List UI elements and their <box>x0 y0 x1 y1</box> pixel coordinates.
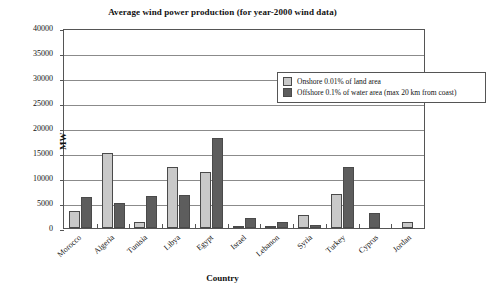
x-tick-label-text: Morocco <box>56 233 83 259</box>
bar-group <box>195 30 228 228</box>
x-tick-label-text: Jordan <box>391 233 413 254</box>
x-label-cell: Jordan <box>392 231 425 275</box>
y-tick-label: 0 <box>49 225 53 233</box>
chart-title: Average wind power production (for year-… <box>0 7 445 17</box>
legend-item-onshore: Onshore 0.01% of land area <box>283 76 480 87</box>
bar-onshore <box>265 226 276 228</box>
bar-onshore <box>69 211 80 228</box>
x-axis-title: Country <box>0 273 445 283</box>
bar-onshore <box>233 226 244 228</box>
legend-label-offshore: Offshore 0.1% of water area (max 20 km f… <box>297 87 456 98</box>
x-label-cell: Libya <box>162 231 195 275</box>
bar-onshore <box>134 222 145 228</box>
y-tick-label: 30000 <box>33 75 53 83</box>
x-label-cell: Cyprus <box>359 231 392 275</box>
x-label-cell: Egypt <box>195 231 228 275</box>
bar-offshore <box>343 167 354 228</box>
x-label-cell: Syria <box>293 231 326 275</box>
x-tick-label-text: Libya <box>162 233 182 252</box>
bar-group <box>326 30 359 228</box>
x-tick-label-text: Algeria <box>93 233 117 256</box>
bar-group <box>293 30 326 228</box>
bar-group <box>228 30 261 228</box>
bar-group <box>260 30 293 228</box>
x-axis-labels: MoroccoAlgeriaTunisiaLibyaEgyptIsraelLeb… <box>63 231 425 275</box>
x-label-cell: Algeria <box>96 231 129 275</box>
y-tick-label: 35000 <box>33 50 53 58</box>
x-tick-label-text: Turkey <box>324 233 347 255</box>
x-tick-label-text: Cyprus <box>356 233 379 255</box>
bar-offshore <box>369 213 380 229</box>
y-tick-label: 5000 <box>37 200 53 208</box>
bar-onshore <box>331 194 342 228</box>
legend-swatch-onshore-icon <box>283 77 292 86</box>
bar-group <box>162 30 195 228</box>
y-tick-label: 20000 <box>33 125 53 133</box>
bar-onshore <box>102 153 113 228</box>
x-tick-label-text: Israel <box>229 233 248 252</box>
x-label-cell: Morocco <box>63 231 96 275</box>
bar-groups <box>64 30 424 228</box>
y-tick-label: 40000 <box>33 25 53 33</box>
bar-onshore <box>200 172 211 228</box>
y-tick-label: 10000 <box>33 175 53 183</box>
y-tick-label: 25000 <box>33 100 53 108</box>
bar-offshore <box>212 138 223 228</box>
x-tick-label-text: Egypt <box>195 233 215 252</box>
plot-area: MW Onshore 0.01% of land area Offshore 0… <box>63 29 425 229</box>
bar-onshore <box>167 167 178 229</box>
legend-swatch-offshore-icon <box>283 88 292 97</box>
bar-group <box>97 30 130 228</box>
legend-item-offshore: Offshore 0.1% of water area (max 20 km f… <box>283 87 480 98</box>
chart-legend: Onshore 0.01% of land area Offshore 0.1%… <box>277 72 486 103</box>
bar-group <box>359 30 392 228</box>
x-tick-label-text: Syria <box>295 233 314 251</box>
x-tick-label-text: Tunisia <box>126 233 150 256</box>
legend-label-onshore: Onshore 0.01% of land area <box>297 76 381 87</box>
x-label-cell: Turkey <box>326 231 359 275</box>
y-tick-label: 15000 <box>33 150 53 158</box>
x-label-cell: Tunisia <box>129 231 162 275</box>
bar-group <box>129 30 162 228</box>
bar-group <box>391 30 424 228</box>
y-axis-labels: 0500010000150002000025000300003500040000 <box>0 0 59 287</box>
bar-group <box>64 30 97 228</box>
x-label-cell: Lebanon <box>260 231 293 275</box>
